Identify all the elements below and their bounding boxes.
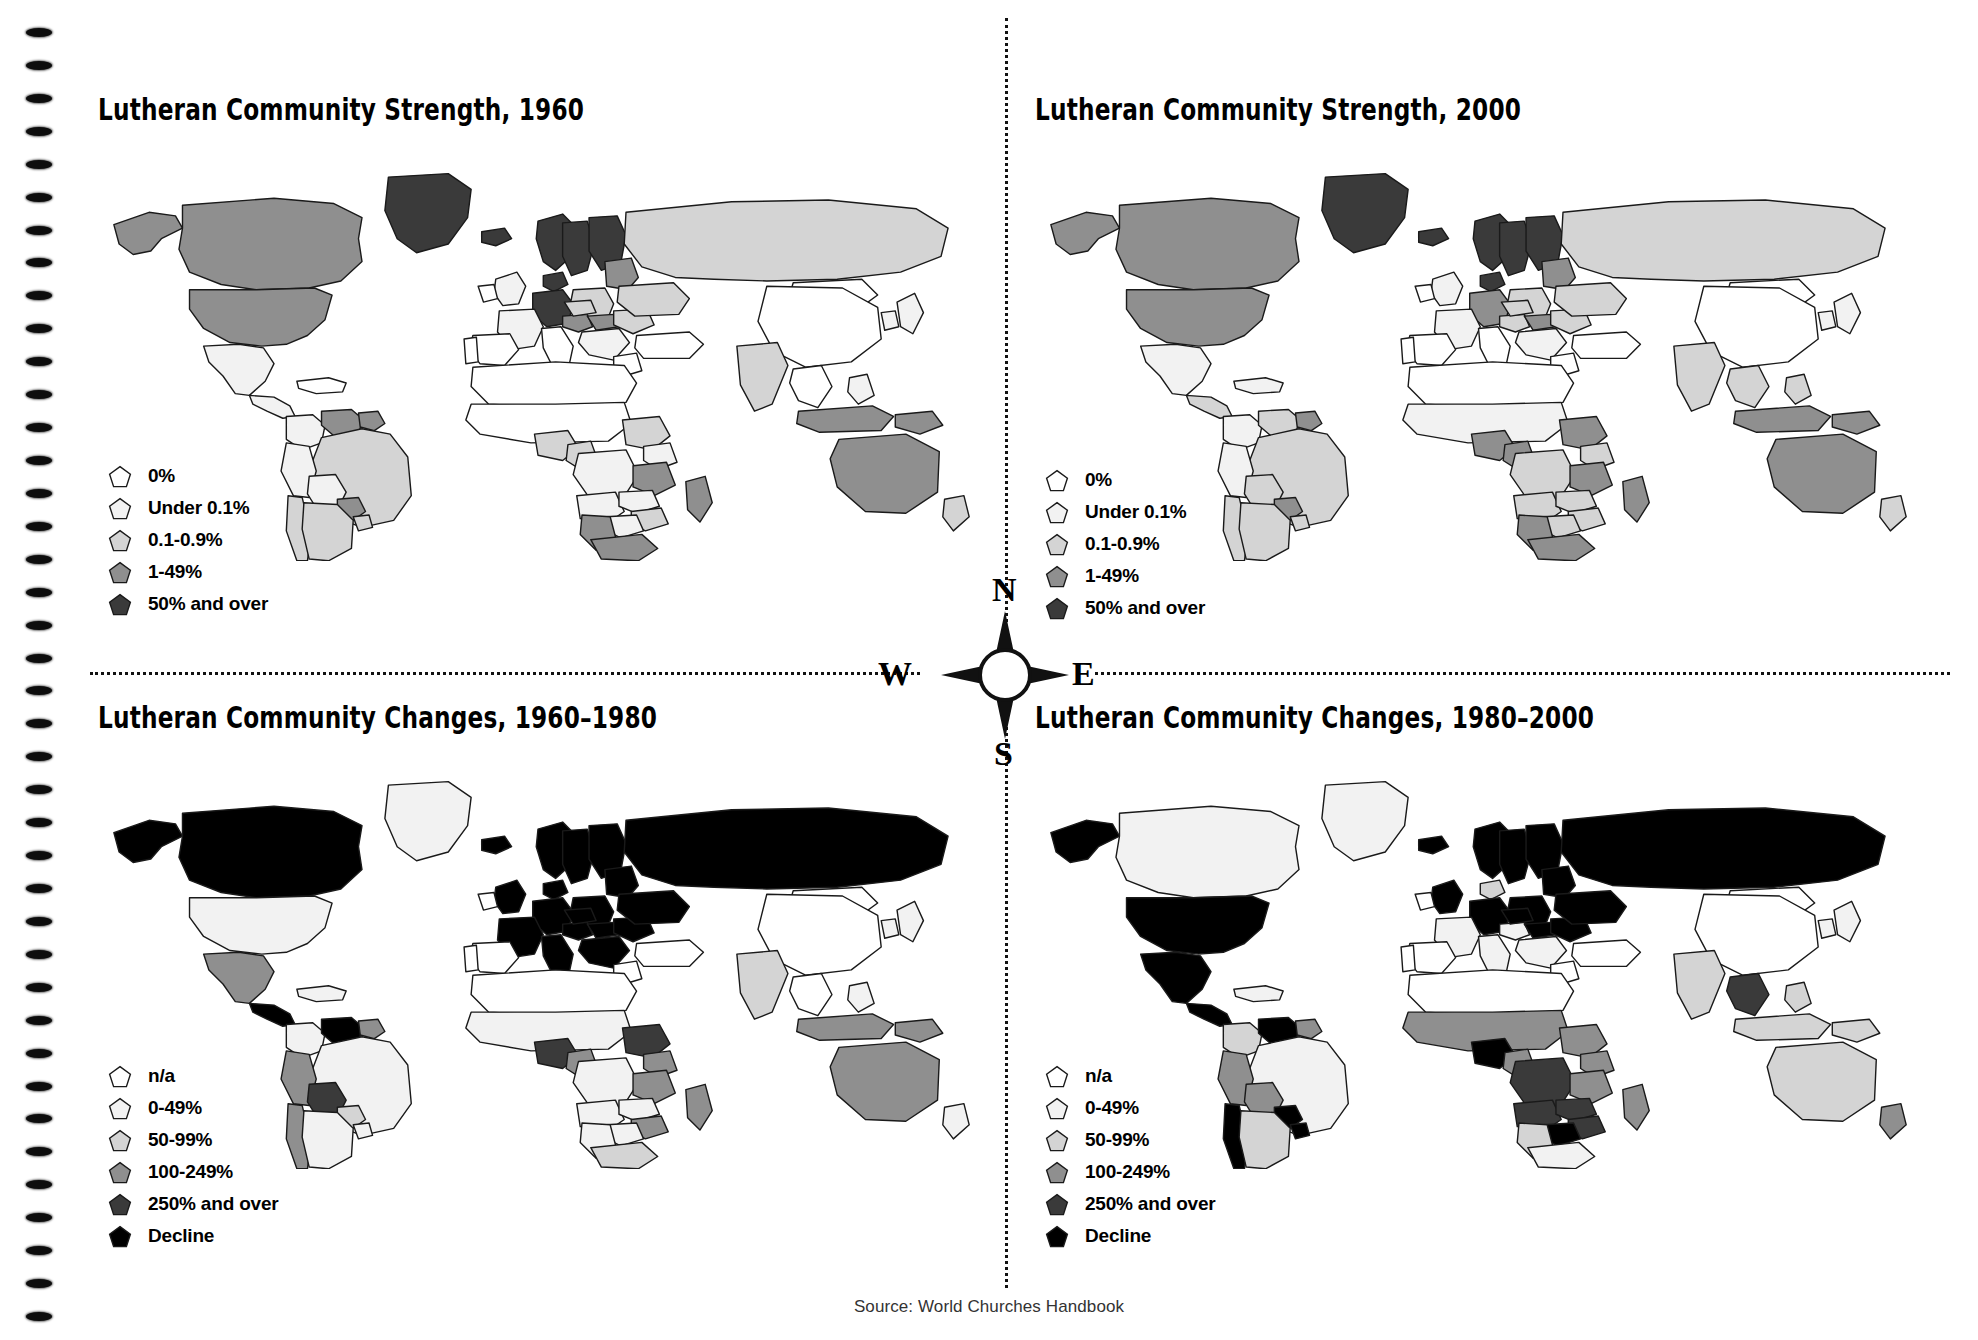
legend-row[interactable]: Under 0.1% xyxy=(1045,496,1205,528)
map-region-ukraine[interactable] xyxy=(617,891,689,924)
map-region-greenland[interactable] xyxy=(385,174,471,253)
map-region-iceland[interactable] xyxy=(1419,228,1449,246)
legend-row[interactable]: 0% xyxy=(108,460,268,492)
legend-row[interactable]: 0-49% xyxy=(108,1092,278,1124)
map-region-northafrica[interactable] xyxy=(1408,970,1573,1016)
map-region-seasia[interactable] xyxy=(1727,973,1769,1015)
map-region-southafrica[interactable] xyxy=(591,534,658,560)
map-region-turkey[interactable] xyxy=(635,332,704,358)
map-region-greenland[interactable] xyxy=(385,782,471,861)
map-region-newzealand[interactable] xyxy=(943,1104,969,1139)
legend-row[interactable]: 50-99% xyxy=(108,1124,278,1156)
map-region-canada[interactable] xyxy=(179,806,362,898)
map-region-guyana[interactable] xyxy=(1295,1019,1321,1038)
legend-row[interactable]: 250% and over xyxy=(108,1188,278,1220)
map-region-northafrica[interactable] xyxy=(471,362,636,408)
map-region-india[interactable] xyxy=(737,343,788,412)
map-region-canada[interactable] xyxy=(1116,198,1299,290)
map-region-japan[interactable] xyxy=(1834,293,1860,333)
map-region-australia[interactable] xyxy=(830,1042,939,1121)
map-region-usa[interactable] xyxy=(190,896,333,954)
map-region-russia[interactable] xyxy=(1561,200,1885,281)
map-region-png[interactable] xyxy=(1832,1019,1880,1042)
map-region-caribbean[interactable] xyxy=(297,378,346,394)
map-region-madagascar[interactable] xyxy=(686,1084,712,1130)
map-region-australia[interactable] xyxy=(1767,1042,1876,1121)
map-region-png[interactable] xyxy=(1832,411,1880,434)
map-region-denmark[interactable] xyxy=(1480,272,1505,291)
legend-row[interactable]: 0% xyxy=(1045,464,1205,496)
map-region-uk[interactable] xyxy=(1431,880,1463,913)
map-region-ireland[interactable] xyxy=(1415,284,1434,302)
map-region-portugal[interactable] xyxy=(1401,945,1415,971)
map-region-caribbean[interactable] xyxy=(297,986,346,1002)
map-region-ireland[interactable] xyxy=(1415,892,1434,910)
map-region-png[interactable] xyxy=(895,411,943,434)
map-region-greenland[interactable] xyxy=(1322,782,1408,861)
legend-row[interactable]: 1-49% xyxy=(108,556,268,588)
map-region-uruguay[interactable] xyxy=(1290,515,1309,531)
map-region-png[interactable] xyxy=(895,1019,943,1042)
map-region-madagascar[interactable] xyxy=(686,476,712,522)
map-region-usa[interactable] xyxy=(1127,288,1270,346)
legend-row[interactable]: 0.1-0.9% xyxy=(108,524,268,556)
map-region-russia[interactable] xyxy=(624,808,948,889)
map-region-seasia[interactable] xyxy=(790,973,832,1015)
map-region-ukraine[interactable] xyxy=(1554,283,1626,316)
map-region-iceland[interactable] xyxy=(482,228,512,246)
map-region-greenland[interactable] xyxy=(1322,174,1408,253)
map-region-northafrica[interactable] xyxy=(1408,362,1573,408)
map-region-mexico[interactable] xyxy=(204,344,274,395)
map-region-philippines[interactable] xyxy=(1785,982,1811,1012)
map-region-indonesia[interactable] xyxy=(797,406,894,432)
map-region-denmark[interactable] xyxy=(543,272,568,291)
map-region-uk[interactable] xyxy=(1431,272,1463,305)
map-region-denmark[interactable] xyxy=(1480,880,1505,899)
map-region-russia[interactable] xyxy=(624,200,948,281)
map-region-philippines[interactable] xyxy=(848,374,874,404)
map-region-newzealand[interactable] xyxy=(1880,496,1906,531)
map-region-southafrica[interactable] xyxy=(1528,1142,1595,1168)
map-region-philippines[interactable] xyxy=(1785,374,1811,404)
map-region-madagascar[interactable] xyxy=(1623,1084,1649,1130)
map-region-iceland[interactable] xyxy=(1419,836,1449,854)
map-region-ireland[interactable] xyxy=(478,284,497,302)
map-region-india[interactable] xyxy=(737,951,788,1020)
map-region-portugal[interactable] xyxy=(464,945,478,971)
map-region-japan[interactable] xyxy=(897,293,923,333)
map-region-indonesia[interactable] xyxy=(797,1014,894,1040)
map-region-japan[interactable] xyxy=(897,901,923,941)
map-region-indonesia[interactable] xyxy=(1734,406,1831,432)
map-region-guyana[interactable] xyxy=(358,411,384,430)
map-region-korea[interactable] xyxy=(1818,311,1836,330)
legend-row[interactable]: 0.1-0.9% xyxy=(1045,528,1205,560)
legend-row[interactable]: 50-99% xyxy=(1045,1124,1215,1156)
map-region-indonesia[interactable] xyxy=(1734,1014,1831,1040)
legend-row[interactable]: Decline xyxy=(108,1220,278,1252)
map-region-india[interactable] xyxy=(1674,343,1725,412)
map-region-iceland[interactable] xyxy=(482,836,512,854)
map-region-india[interactable] xyxy=(1674,951,1725,1020)
legend-row[interactable]: 0-49% xyxy=(1045,1092,1215,1124)
map-region-southafrica[interactable] xyxy=(591,1142,658,1168)
legend-row[interactable]: n/a xyxy=(108,1060,278,1092)
map-region-ireland[interactable] xyxy=(478,892,497,910)
map-region-portugal[interactable] xyxy=(464,337,478,363)
map-region-turkey[interactable] xyxy=(635,940,704,966)
map-region-alaska[interactable] xyxy=(1051,212,1120,254)
map-region-alaska[interactable] xyxy=(114,212,183,254)
map-region-southafrica[interactable] xyxy=(1528,534,1595,560)
legend-row[interactable]: 250% and over xyxy=(1045,1188,1215,1220)
map-region-guyana[interactable] xyxy=(1295,411,1321,430)
map-region-japan[interactable] xyxy=(1834,901,1860,941)
map-region-seasia[interactable] xyxy=(790,365,832,407)
map-region-northafrica[interactable] xyxy=(471,970,636,1016)
map-region-denmark[interactable] xyxy=(543,880,568,899)
map-region-caribbean[interactable] xyxy=(1234,986,1283,1002)
map-region-ukraine[interactable] xyxy=(1554,891,1626,924)
map-region-guyana[interactable] xyxy=(358,1019,384,1038)
map-region-newzealand[interactable] xyxy=(943,496,969,531)
map-region-alaska[interactable] xyxy=(114,820,183,862)
map-region-australia[interactable] xyxy=(1767,434,1876,513)
map-region-korea[interactable] xyxy=(881,919,899,938)
